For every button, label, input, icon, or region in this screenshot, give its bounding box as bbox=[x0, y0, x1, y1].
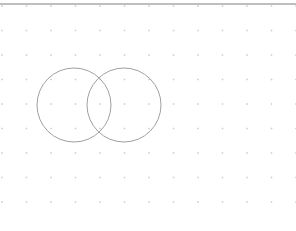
drawing-canvas[interactable] bbox=[0, 0, 296, 231]
grid-dot bbox=[197, 152, 199, 154]
grid-dot bbox=[99, 30, 101, 32]
grid-dot bbox=[148, 5, 150, 7]
grid-dot bbox=[50, 128, 52, 130]
grid-dot bbox=[246, 5, 248, 7]
grid-dot bbox=[295, 128, 296, 130]
grid-dot bbox=[173, 5, 175, 7]
grid-dot bbox=[173, 177, 175, 179]
grid-dot bbox=[246, 152, 248, 154]
grid-dot bbox=[173, 201, 175, 203]
grid-dot bbox=[173, 103, 175, 105]
grid-dot bbox=[50, 152, 52, 154]
grid-dot bbox=[124, 128, 126, 130]
grid-dot bbox=[173, 79, 175, 81]
grid-dot bbox=[26, 103, 28, 105]
grid-dot bbox=[99, 152, 101, 154]
grid-dot bbox=[295, 177, 296, 179]
grid-dot bbox=[222, 201, 224, 203]
grid-dot bbox=[50, 103, 52, 105]
grid-dot bbox=[246, 201, 248, 203]
grid-dot bbox=[75, 79, 77, 81]
grid-dot bbox=[124, 201, 126, 203]
grid-dot bbox=[197, 177, 199, 179]
grid-dot bbox=[197, 5, 199, 7]
grid-dot bbox=[271, 177, 273, 179]
grid-dot bbox=[99, 128, 101, 130]
grid-dot bbox=[26, 177, 28, 179]
grid-dot bbox=[295, 152, 296, 154]
grid-dot bbox=[124, 177, 126, 179]
grid-dot bbox=[148, 177, 150, 179]
grid-dot bbox=[197, 128, 199, 130]
grid-dot bbox=[173, 54, 175, 56]
grid-dot bbox=[222, 177, 224, 179]
grid-dot bbox=[75, 201, 77, 203]
grid-dot bbox=[50, 54, 52, 56]
grid-dot bbox=[1, 79, 3, 81]
grid-dot bbox=[197, 201, 199, 203]
grid-dot bbox=[50, 79, 52, 81]
grid-dot bbox=[50, 5, 52, 7]
grid-dot bbox=[271, 128, 273, 130]
grid-dot bbox=[99, 54, 101, 56]
grid-dot bbox=[148, 152, 150, 154]
grid-dot bbox=[222, 54, 224, 56]
grid-dot bbox=[1, 152, 3, 154]
grid-dot bbox=[99, 201, 101, 203]
grid-dot bbox=[26, 128, 28, 130]
grid-dot bbox=[197, 79, 199, 81]
grid-dot bbox=[124, 30, 126, 32]
grid-dot bbox=[148, 103, 150, 105]
grid-dot bbox=[222, 103, 224, 105]
grid-dot bbox=[26, 54, 28, 56]
grid-dot bbox=[222, 152, 224, 154]
grid-dot bbox=[124, 152, 126, 154]
grid-dot bbox=[246, 79, 248, 81]
grid-dot bbox=[271, 5, 273, 7]
grid-dot bbox=[197, 54, 199, 56]
grid-dot bbox=[222, 30, 224, 32]
grid-dot bbox=[50, 30, 52, 32]
grid-dot bbox=[271, 103, 273, 105]
grid-dot bbox=[197, 103, 199, 105]
grid-dot bbox=[1, 30, 3, 32]
grid-dot bbox=[1, 103, 3, 105]
grid-dot bbox=[50, 201, 52, 203]
grid-dot bbox=[124, 5, 126, 7]
grid-dot bbox=[173, 152, 175, 154]
grid-dot bbox=[148, 54, 150, 56]
grid-dot bbox=[148, 30, 150, 32]
grid-dot bbox=[295, 54, 296, 56]
grid-dot bbox=[99, 5, 101, 7]
grid-dot bbox=[295, 5, 296, 7]
grid-dot bbox=[246, 128, 248, 130]
grid-dot bbox=[295, 103, 296, 105]
grid-dot bbox=[75, 128, 77, 130]
grid-dot bbox=[124, 103, 126, 105]
grid-dot bbox=[1, 177, 3, 179]
grid-dot bbox=[75, 177, 77, 179]
grid-dot bbox=[124, 54, 126, 56]
grid-dot bbox=[173, 30, 175, 32]
grid-dot bbox=[26, 201, 28, 203]
grid-dot bbox=[26, 30, 28, 32]
grid-dot bbox=[246, 177, 248, 179]
grid-dot bbox=[148, 201, 150, 203]
grid-dot bbox=[75, 54, 77, 56]
dot-grid bbox=[1, 5, 296, 203]
grid-dot bbox=[26, 152, 28, 154]
grid-dot bbox=[246, 54, 248, 56]
grid-dot bbox=[1, 128, 3, 130]
grid-dot bbox=[99, 177, 101, 179]
grid-dot bbox=[173, 128, 175, 130]
grid-dot bbox=[75, 152, 77, 154]
grid-dot bbox=[75, 103, 77, 105]
venn-diagram bbox=[0, 0, 296, 231]
grid-dot bbox=[197, 30, 199, 32]
grid-dot bbox=[222, 128, 224, 130]
grid-dot bbox=[222, 79, 224, 81]
grid-dot bbox=[1, 201, 3, 203]
grid-dot bbox=[271, 79, 273, 81]
grid-dot bbox=[295, 79, 296, 81]
grid-dot bbox=[75, 5, 77, 7]
